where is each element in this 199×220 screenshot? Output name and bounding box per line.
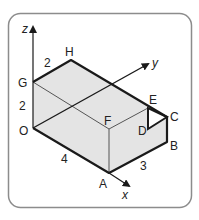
dim-AB: 3 (140, 159, 147, 173)
cuboid-diagram: z y x H G O F E D C B A 2 2 4 3 (0, 0, 199, 220)
vertex-O: O (19, 124, 28, 138)
y-axis-label: y (151, 56, 159, 70)
dim-OA: 4 (61, 152, 68, 166)
dim-OG: 2 (19, 99, 26, 113)
vertex-D: D (138, 124, 147, 138)
x-axis-label: x (121, 188, 129, 202)
vertex-E: E (149, 93, 157, 107)
vertex-C: C (170, 110, 179, 124)
vertex-B: B (170, 139, 178, 153)
vertex-F: F (104, 114, 111, 128)
vertex-H: H (65, 45, 74, 59)
vertex-A: A (99, 177, 107, 191)
vertex-G: G (18, 76, 27, 90)
z-axis-label: z (21, 22, 28, 36)
dim-GH: 2 (44, 56, 51, 70)
